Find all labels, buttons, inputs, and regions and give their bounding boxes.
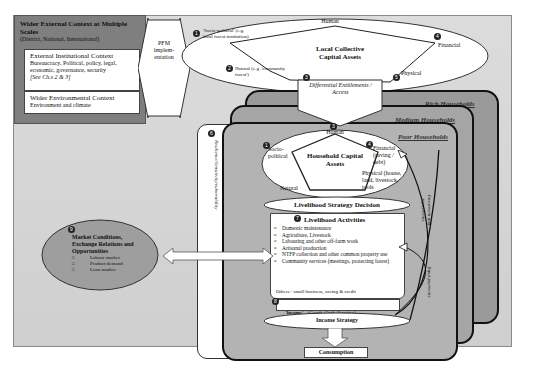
activity-item: Community services (meetings, protecting… [272,258,402,265]
household-assets-title: Household Capital Assets [305,152,365,168]
pfm-label: PFM implem-entation [148,40,180,61]
feedback-loop-arrows [395,150,450,320]
number-1-icon: 1 [193,30,200,37]
market-double-arrow-icon [163,247,273,265]
entitlements-label: Differential Entitlements / Access [303,82,378,96]
number-8-icon: 8 [272,298,279,305]
number-3-icon: 3 [303,74,310,81]
local-assets-title: Local Collective Capital Assets [305,45,375,61]
activities-list: Domestic maintenance Agriculture, Livest… [272,225,402,265]
institutional-title: External Institutional Context [25,50,139,60]
market-list: Labour market Product demand Loan market [70,255,150,273]
strategy-decision-label: Livelihood Strategy Decision [262,201,412,209]
livelihood-framework-diagram: Wider External Context at Multiple Scale… [0,0,533,385]
local-human-label: Human [305,18,355,25]
number-7-icon: 7 [294,215,301,222]
hh-socio-political-label: Socio-political [268,146,298,160]
number-4-icon: 4 [434,33,441,40]
number-9-icon: 9 [68,226,75,233]
activity-item: Domestic maintenance [272,225,402,232]
external-context-title: Wider External Context at Multiple Scale… [20,20,140,36]
hh-human-label: Human [320,129,350,136]
hh-number-4-icon: 4 [366,141,373,148]
activity-item: Artisanal production [272,245,402,252]
down-arrow-icon [320,328,350,348]
environmental-title: Wider Environmental Context [25,92,139,102]
hh-natural-label: Natural [280,185,298,192]
consumption-box: Consumption [304,347,368,358]
local-natural-label: Natural (e.g. 'community forest') [235,66,295,78]
market-title: Market Conditions, Exchange Relations an… [72,234,142,255]
number-6-icon: 6 [208,130,215,137]
environmental-context-box: Wider Environmental Context Environment … [24,91,140,114]
income-box: 'Income' (Goods, Cash, Services) [276,299,400,311]
investment-repayments-label: Investment and repayments [420,185,432,235]
activities-others: Others - small business, saving & credit [276,289,356,295]
external-context-scales: (District, National, International) [20,36,99,43]
local-physical-label: Physical [401,70,421,77]
number-2-icon: 2 [226,65,233,72]
market-item: Loan market [70,267,150,273]
environmental-body: Environment and climate [25,102,139,109]
institutional-body: Bureaucracy, Political, policy, legal, e… [25,60,139,74]
local-financial-label: Financial [438,42,460,49]
activities-title: Livelihood Activities [304,216,365,224]
input-payments-label: Input payments [426,262,432,302]
activity-item: Agriculture, Livestock [272,232,402,239]
activity-item: Labouring and other off-farm work [272,238,402,245]
institutional-ref: [See Ch.s 2 & 3] [25,74,139,81]
activity-item: NTFP collection and other common propert… [272,251,402,258]
local-socio-political-label: 'Socio-political' (e.g. local forest ins… [203,28,253,40]
income-strategy-label: Income Strategy [262,317,412,324]
number-5-icon: 5 [393,74,400,81]
institutional-context-box: External Institutional Context Bureaucra… [24,49,140,91]
